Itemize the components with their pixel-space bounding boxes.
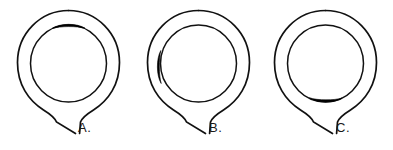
outer-ring-left-arc: [275, 11, 333, 134]
diagram-canvas: A. B. C.: [0, 0, 393, 150]
outer-ring-right-arc: [326, 11, 377, 134]
figure-a-drawing: [0, 0, 133, 150]
lesion-marker-top: [52, 24, 85, 28]
figure-a-label: A.: [78, 121, 91, 134]
outer-ring-right-arc: [69, 11, 120, 134]
figure-b-drawing: [133, 0, 263, 150]
figure-c-label: C.: [336, 121, 350, 134]
inner-ring: [288, 25, 364, 102]
figure-c[interactable]: C.: [263, 0, 393, 150]
inner-ring: [161, 25, 237, 102]
figure-b[interactable]: B.: [133, 0, 263, 150]
outer-ring-right-arc: [199, 11, 250, 134]
inner-ring: [31, 25, 107, 102]
figure-a[interactable]: A.: [0, 0, 133, 150]
outer-ring-left-arc: [18, 11, 76, 134]
lesion-marker-bottom: [310, 98, 343, 102]
figure-b-label: B.: [209, 121, 222, 134]
figure-c-drawing: [263, 0, 393, 150]
outer-ring-left-arc: [148, 11, 206, 134]
